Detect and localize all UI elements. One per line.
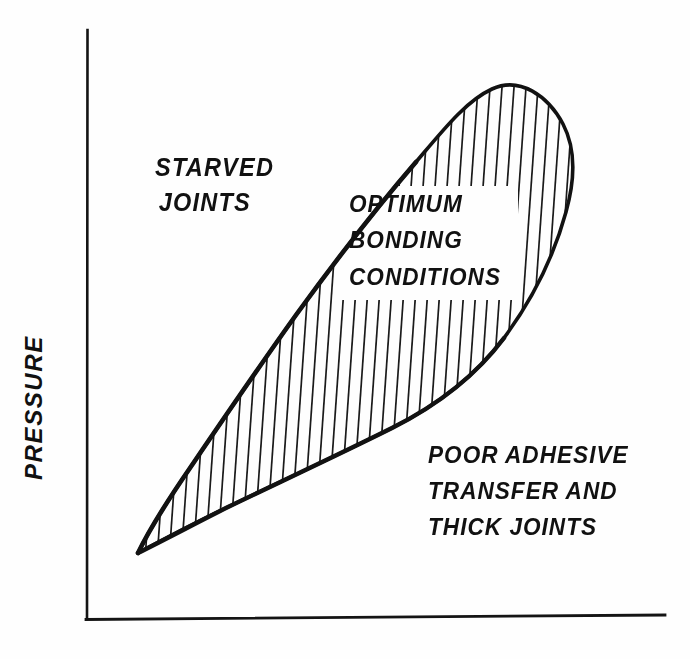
starved-joints-line-1: STARVED xyxy=(155,150,274,185)
figure-canvas xyxy=(0,0,690,659)
region-label-poor-adhesive-transfer: POOR ADHESIVE TRANSFER AND THICK JOINTS xyxy=(428,437,629,545)
poor-line-2: TRANSFER AND xyxy=(428,473,629,509)
optimum-envelope xyxy=(102,30,626,659)
optimum-line-1: OPTIMUM xyxy=(349,186,501,222)
pressure-axis-title: PRESSURE xyxy=(20,220,54,480)
region-label-starved-joints: STARVED JOINTS xyxy=(155,150,274,219)
optimum-line-2: BONDING xyxy=(349,222,501,258)
pressure-axis-line xyxy=(87,30,88,619)
poor-line-3: THICK JOINTS xyxy=(428,509,629,545)
bonding-conditions-figure: PRESSURE STARVED JOINTS OPTIMUM BONDING … xyxy=(0,0,690,659)
starved-joints-line-2: JOINTS xyxy=(155,185,274,220)
region-label-optimum-bonding-conditions: OPTIMUM BONDING CONDITIONS xyxy=(349,186,501,295)
speed-axis-line xyxy=(86,615,665,620)
envelope-hatching xyxy=(102,30,626,659)
poor-line-1: POOR ADHESIVE xyxy=(428,437,629,473)
optimum-line-3: CONDITIONS xyxy=(349,259,501,295)
